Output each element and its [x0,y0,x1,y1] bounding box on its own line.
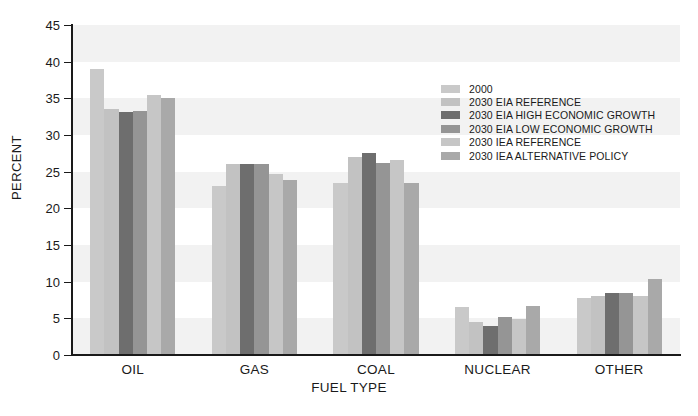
bar [455,307,469,355]
y-axis-tick-label: 45 [20,19,60,32]
y-axis-tick [64,318,72,319]
legend-swatch [441,152,460,160]
legend-swatch [441,111,460,119]
legend-item: 2030 EIA LOW ECONOMIC GROWTH [441,122,655,135]
background-band [72,25,680,62]
bar [362,153,376,355]
bar [254,164,268,355]
bar [512,319,526,355]
bar [133,111,147,355]
bar [333,183,347,355]
legend: 20002030 EIA REFERENCE2030 EIA HIGH ECON… [441,82,655,162]
bar [483,326,497,355]
bar [269,174,283,355]
legend-item: 2030 IEA ALTERNATIVE POLICY [441,149,655,162]
legend-item: 2030 EIA HIGH ECONOMIC GROWTH [441,109,655,122]
x-axis-category-label: COAL [315,362,437,377]
bar [605,293,619,355]
bar [577,298,591,355]
bar [469,322,483,355]
legend-label: 2000 [469,83,493,95]
y-axis-tick [64,245,72,246]
bar [498,317,512,355]
legend-item: 2030 EIA REFERENCE [441,95,655,108]
x-axis-category-label: OIL [72,362,194,377]
y-axis-tick [64,135,72,136]
legend-label: 2030 IEA REFERENCE [469,136,581,148]
bar [619,293,633,355]
legend-label: 2030 EIA REFERENCE [469,96,581,108]
y-axis-tick [64,25,72,26]
y-axis-tick-label: 10 [20,276,60,289]
y-axis-tick [64,98,72,99]
bar [90,69,104,355]
x-axis-category-label: NUCLEAR [437,362,559,377]
y-axis-tick-label: 30 [20,129,60,142]
x-axis-title: FUEL TYPE [0,380,698,395]
y-axis-tick-label: 25 [20,166,60,179]
x-axis-category-label: OTHER [558,362,680,377]
bar [348,157,362,355]
legend-label: 2030 IEA ALTERNATIVE POLICY [469,150,628,162]
y-axis-tick-label: 0 [20,349,60,362]
bar [376,163,390,355]
legend-swatch [441,138,460,146]
bar [240,164,254,355]
legend-item: 2000 [441,82,655,95]
legend-swatch [441,98,460,106]
bar [226,164,240,355]
y-axis-tick [64,172,72,173]
legend-label: 2030 EIA LOW ECONOMIC GROWTH [469,123,653,135]
bar [390,160,404,355]
bar [104,109,118,355]
x-axis-category-label: GAS [194,362,316,377]
y-axis-tick-label: 5 [20,312,60,325]
y-axis-tick [64,208,72,209]
y-axis-tick [64,62,72,63]
bar-chart: 051015202530354045 PERCENT OILGASCOALNUC… [0,0,698,416]
y-axis-tick [64,282,72,283]
bar [161,98,175,355]
y-axis-line [71,24,73,356]
bar [283,180,297,355]
legend-item: 2030 IEA REFERENCE [441,136,655,149]
bar [404,183,418,355]
bar [212,186,226,355]
y-axis-title: PERCENT [9,108,24,228]
bar [591,296,605,355]
legend-label: 2030 EIA HIGH ECONOMIC GROWTH [469,109,655,121]
y-axis-tick-label: 20 [20,202,60,215]
plot-area [72,25,680,355]
legend-swatch [441,125,460,133]
y-axis-tick [64,355,72,356]
bar [648,279,662,355]
bar [147,95,161,355]
y-axis-tick-label: 40 [20,56,60,69]
y-axis-tick-label: 35 [20,92,60,105]
bar [633,296,647,355]
bar [526,306,540,355]
y-axis-tick-label: 15 [20,239,60,252]
x-axis-line [71,354,681,356]
legend-swatch [441,85,460,93]
bar [119,112,133,355]
